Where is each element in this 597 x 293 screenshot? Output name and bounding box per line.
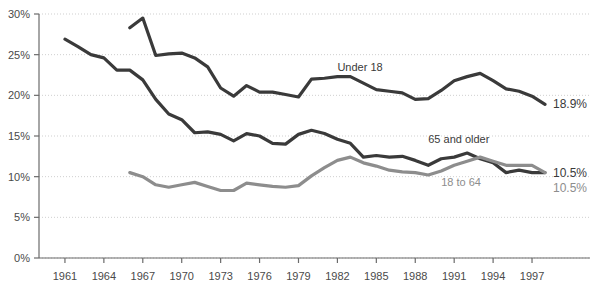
x-tick-label: 1973 <box>208 270 232 282</box>
series-annotation: Under 18 <box>337 61 382 73</box>
series-annotation: 18 to 64 <box>441 176 481 188</box>
y-tick-label: 30% <box>8 8 30 20</box>
y-tick-label: 0% <box>14 252 30 264</box>
chart-background <box>0 0 597 293</box>
y-tick-label: 25% <box>8 49 30 61</box>
x-tick-label: 1961 <box>53 270 77 282</box>
chart-canvas: 0%5%10%15%20%25%30% 19611964196719701973… <box>0 0 597 293</box>
x-tick-label: 1991 <box>442 270 466 282</box>
y-tick-label: 5% <box>14 211 30 223</box>
x-tick-label: 1994 <box>481 270 505 282</box>
y-tick-label: 15% <box>8 130 30 142</box>
x-tick-label: 1979 <box>286 270 310 282</box>
series-end-label: 10.5% <box>553 166 587 180</box>
series-end-label: 18.9% <box>553 97 587 111</box>
y-tick-label: 10% <box>8 171 30 183</box>
series-annotation: 65 and older <box>428 133 489 145</box>
x-tick-label: 1976 <box>247 270 271 282</box>
y-tick-label: 20% <box>8 89 30 101</box>
x-tick-label: 1964 <box>92 270 116 282</box>
x-tick-label: 1988 <box>403 270 427 282</box>
poverty-rate-line-chart: 0%5%10%15%20%25%30% 19611964196719701973… <box>0 0 597 293</box>
x-tick-label: 1982 <box>325 270 349 282</box>
x-tick-label: 1970 <box>169 270 193 282</box>
x-tick-label: 1967 <box>131 270 155 282</box>
x-tick-label: 1997 <box>520 270 544 282</box>
series-end-label: 10.5% <box>553 181 587 195</box>
x-tick-label: 1985 <box>364 270 388 282</box>
top-crop-mask <box>0 0 597 7</box>
